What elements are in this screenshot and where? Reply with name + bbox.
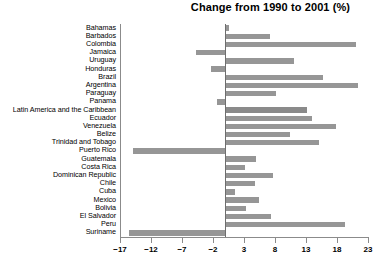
axis-tick-label: −7 — [167, 245, 197, 255]
axis-tick — [368, 238, 369, 243]
bar — [129, 230, 226, 235]
bar — [225, 189, 235, 194]
bars-layer — [120, 24, 368, 237]
axis-tick-label: 3 — [229, 245, 259, 255]
axis-tick — [306, 238, 307, 243]
axis-tick — [182, 238, 183, 243]
bar — [225, 156, 256, 161]
bar — [225, 140, 319, 145]
bar — [225, 165, 245, 170]
bar — [225, 34, 270, 39]
axis-tick — [213, 238, 214, 243]
bar — [196, 50, 226, 55]
axis-tick-label: 23 — [353, 245, 373, 255]
category-label: El Salvador — [0, 212, 116, 220]
bar — [225, 116, 311, 121]
bar — [225, 132, 289, 137]
axis-tick-label: −2 — [198, 245, 228, 255]
value-axis — [120, 237, 369, 239]
bar — [225, 214, 271, 219]
bar — [211, 66, 226, 71]
bar-chart: Change from 1990 to 2001 (%) BahamasBarb… — [0, 0, 373, 265]
axis-tick — [244, 238, 245, 243]
bar — [225, 42, 355, 47]
bar — [225, 181, 255, 186]
axis-tick-label: 8 — [260, 245, 290, 255]
bar — [225, 91, 275, 96]
bar — [133, 148, 225, 153]
bar — [225, 83, 358, 88]
bar — [225, 124, 335, 129]
bar — [225, 173, 272, 178]
bar — [225, 222, 345, 227]
axis-tick-label: 13 — [291, 245, 321, 255]
axis-tick-label: −12 — [136, 245, 166, 255]
axis-tick — [337, 238, 338, 243]
axis-tick — [275, 238, 276, 243]
chart-title: Change from 1990 to 2001 (%) — [168, 1, 373, 14]
bar — [225, 197, 258, 202]
bar — [225, 58, 293, 63]
value-axis-tick-labels: −17−12−7−238131823 — [100, 245, 373, 257]
bar — [225, 206, 245, 211]
plot-area — [120, 24, 368, 237]
bar — [225, 107, 307, 112]
category-axis-labels: BahamasBarbadosColombiaJamaicaUruguayHon… — [0, 24, 116, 236]
axis-tick-label: 18 — [322, 245, 352, 255]
zero-reference-line — [225, 24, 226, 237]
axis-tick — [120, 238, 121, 243]
category-label: Suriname — [0, 228, 116, 236]
axis-tick-label: −17 — [105, 245, 135, 255]
category-label: Dominican Republic — [0, 171, 116, 179]
bar — [225, 75, 323, 80]
axis-tick — [151, 238, 152, 243]
